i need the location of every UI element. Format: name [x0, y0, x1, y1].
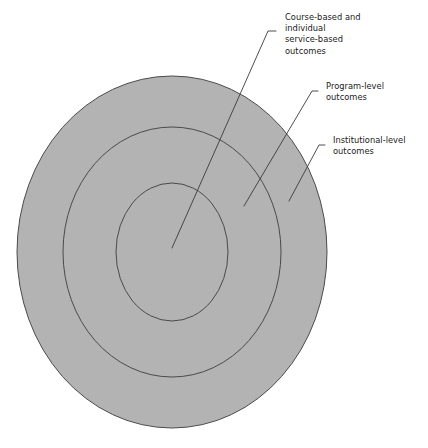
callout-line: Program-level [326, 81, 384, 91]
callout-line: Institutional-level [333, 135, 405, 145]
callout-line: outcomes [333, 146, 374, 156]
callout-line: outcomes [326, 92, 367, 102]
callout-line: Course-based and [285, 12, 361, 22]
callout-line: individual [285, 23, 325, 33]
callout-line: outcomes [285, 46, 326, 56]
callout-line: service-based [285, 34, 343, 44]
nested-outcomes-diagram: Course-based and individual service-base… [0, 0, 428, 448]
inner-ellipse-course-based [116, 183, 228, 321]
